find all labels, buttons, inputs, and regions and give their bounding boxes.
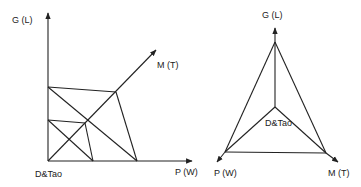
top-g-label: G (L) [262, 10, 283, 20]
left-diagram: G (L) M (T) P (W) D&Tao [12, 13, 198, 179]
m-axis [48, 50, 156, 161]
axis-m-label: M (T) [157, 60, 179, 70]
axis-g-label: G (L) [12, 15, 33, 25]
diagram-canvas: G (L) M (T) P (W) D&Tao G (L) P (W) M (T… [0, 0, 361, 187]
triangle-right-edge [275, 42, 326, 153]
triangle-left-edge [225, 42, 275, 152]
triangle-base [225, 152, 326, 153]
origin-label: D&Tao [35, 169, 62, 179]
p-arrow [217, 152, 225, 162]
m-arrow [326, 153, 338, 162]
inner-g-to-m [48, 120, 85, 123]
left-p-label: P (W) [214, 168, 237, 178]
center-label: D&Tao [265, 118, 292, 128]
outer-m-to-p [116, 92, 137, 161]
right-diagram: G (L) P (W) M (T) D&Tao [214, 10, 350, 178]
axis-p-label: P (W) [175, 167, 198, 177]
outer-g-to-p [48, 87, 137, 161]
spoke-to-m [275, 107, 326, 153]
outer-g-to-m [48, 87, 116, 92]
spoke-to-p [225, 107, 275, 152]
right-m-label: M (T) [328, 168, 350, 178]
